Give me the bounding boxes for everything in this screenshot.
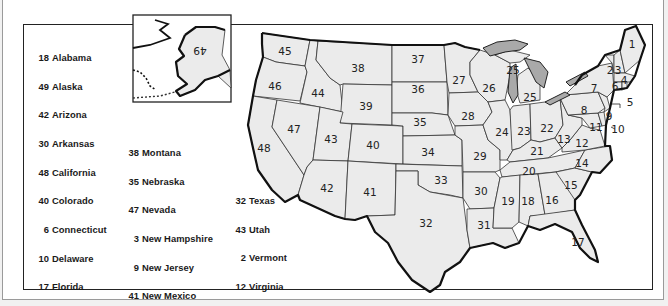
label-georgia: 16 [545,194,559,206]
label-new-hampshire: 3 [615,64,622,76]
label-california: 48 [257,142,270,154]
label-north-carolina: 14 [575,157,589,169]
label-alaska: 49 [193,45,206,57]
label-delaware: 10 [611,123,624,135]
legend-item: 10Delaware [36,254,126,264]
label-louisiana: 31 [477,219,490,231]
label-maine: 1 [629,38,636,50]
label-utah: 43 [324,133,337,145]
label-mississippi: 19 [501,195,514,207]
label-colorado: 40 [366,139,379,151]
label-maryland: 11 [589,121,602,133]
legend-item: 38Montana [126,148,213,158]
legend-item: 48California [36,168,126,178]
label-florida: 17 [571,236,584,248]
label-michigan-lower: 25 [523,91,536,103]
label-alabama: 18 [521,195,534,207]
label-rhode-island: 5 [627,96,634,108]
label-pennsylvania: 8 [581,104,588,116]
label-nevada: 47 [287,123,300,135]
label-virginia: 12 [575,137,588,149]
label-michigan-upper: 25 [506,64,519,76]
legend-item: 41New Mexico [126,291,213,301]
label-oregon: 46 [268,80,282,92]
legend-item: 18Alabama [36,53,126,63]
legend-item: 30Arkansas [36,139,126,149]
label-idaho: 44 [311,87,325,99]
label-massachusetts: 4 [621,74,628,86]
legend-item: 35Nebraska [126,177,213,187]
label-wisconsin: 26 [482,82,496,94]
label-new-york: 7 [591,82,598,94]
label-montana: 38 [351,62,364,74]
label-wyoming: 39 [359,100,372,112]
label-minnesota: 27 [452,74,465,86]
label-kentucky: 21 [530,145,543,157]
legend-item: 17Florida [36,282,126,292]
label-arizona: 42 [320,182,333,194]
label-tennessee: 20 [522,165,535,177]
legend-item: 49Alaska [36,82,126,92]
legend-item: 12Virginia [233,282,309,292]
label-washington: 45 [278,45,291,57]
label-south-dakota: 36 [411,83,425,95]
label-vermont: 2 [607,64,614,76]
label-iowa: 28 [461,110,474,122]
label-connecticut: 6 [612,80,619,92]
legend-item: 40Colorado [36,196,126,206]
label-illinois: 24 [495,126,509,138]
label-south-carolina: 15 [564,179,577,191]
legend-item: 42Arizona [36,110,126,120]
label-new-mexico: 41 [363,186,376,198]
legend-item: 6Connecticut [36,225,126,235]
label-nebraska: 35 [413,116,426,128]
label-north-dakota: 37 [411,53,424,65]
label-west-virginia: 13 [557,133,570,145]
label-indiana: 23 [517,125,530,137]
legend-item: 3New Hampshire [126,234,213,244]
label-new-jersey: 9 [606,110,613,122]
legend-item: 47Nevada [126,205,213,215]
legend-item: 2Vermont [233,253,309,263]
alaska-inset: 49 [133,15,231,102]
legend-item: 32Texas [233,196,309,206]
label-oklahoma: 33 [434,174,447,186]
legend-item: 9New Jersey [126,263,213,273]
label-kansas: 34 [421,146,435,158]
legend-column-3: 32Texas 43Utah 2Vermont 12Virginia 45Was… [233,177,309,306]
label-missouri: 29 [473,150,486,162]
legend-item: 43Utah [233,225,309,235]
label-arkansas: 30 [474,185,487,197]
legend-column-2: 38Montana 35Nebraska 47Nevada 3New Hamps… [126,129,213,306]
legend-column-1: 18Alabama 49Alaska 42Arizona 30Arkansas … [36,34,126,306]
label-ohio: 22 [540,122,553,134]
label-texas: 32 [419,217,432,229]
